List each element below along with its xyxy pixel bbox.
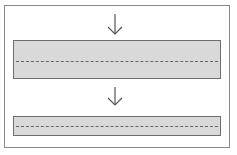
dashed-centerline	[16, 126, 218, 127]
thin-band	[13, 116, 221, 136]
down-arrow-icon	[106, 86, 124, 108]
down-arrow-icon	[106, 13, 124, 37]
thick-band	[13, 40, 221, 79]
dashed-centerline	[16, 61, 218, 62]
